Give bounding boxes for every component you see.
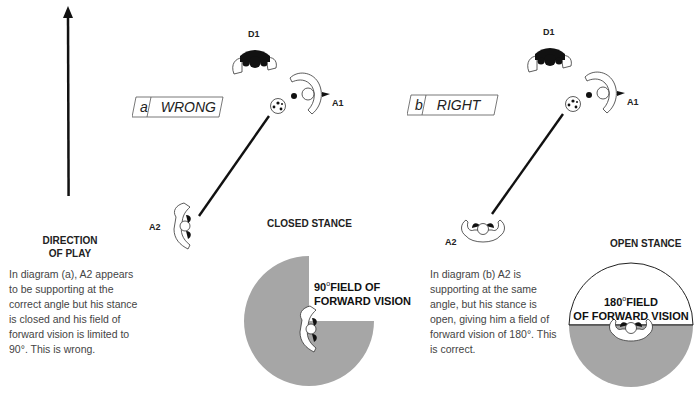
open-stance-title: OPEN STANCE xyxy=(610,238,682,249)
pass-line-a xyxy=(195,114,275,218)
closed-field-degrees: 90 xyxy=(314,281,326,293)
open-field-label: 180oFIELD OF FORWARD VISION xyxy=(572,292,690,323)
open-field-line1: FIELD xyxy=(626,296,658,308)
direction-of-play-label: DIRECTION OF PLAY xyxy=(18,234,122,260)
attacker2-label-a: A2 xyxy=(149,222,161,232)
defender-player-icon-b xyxy=(525,46,575,76)
right-tag-letter: b xyxy=(415,97,423,113)
open-field-line2: OF FORWARD VISION xyxy=(572,309,690,323)
right-tag-label: RIGHT xyxy=(437,97,481,113)
attacker1-player-icon xyxy=(288,70,332,118)
attacker2-label-b: A2 xyxy=(445,237,457,247)
closed-stance-vision-field xyxy=(244,256,374,388)
ball-icon-a xyxy=(269,97,287,115)
closed-field-label: 90oFIELD OF FORWARD VISION xyxy=(314,277,411,308)
ball-icon-b xyxy=(564,95,582,113)
defender-label-a: D1 xyxy=(248,29,260,39)
attacker1-label-b: A1 xyxy=(627,97,639,107)
attacker1-label-a: A1 xyxy=(332,98,344,108)
closed-field-line1: FIELD OF xyxy=(330,281,380,293)
closed-stance-title: CLOSED STANCE xyxy=(267,218,352,229)
defender-label-b: D1 xyxy=(543,27,555,37)
open-field-degrees: 180 xyxy=(604,296,622,308)
defender-player-icon xyxy=(230,48,280,78)
attacker2-closed-player-icon xyxy=(170,201,200,251)
wrong-tag-label: WRONG xyxy=(161,99,216,115)
pass-line-b xyxy=(488,112,568,216)
direction-arrow-icon xyxy=(60,6,76,196)
direction-line2: OF PLAY xyxy=(18,247,122,260)
direction-line1: DIRECTION xyxy=(18,234,122,247)
right-tag: b RIGHT xyxy=(407,94,497,116)
open-stance-vision-field xyxy=(568,262,694,390)
attacker2-open-player-icon xyxy=(458,218,508,248)
wrong-tag-letter: a xyxy=(140,99,148,115)
description-b: In diagram (b) A2 is supporting at the s… xyxy=(430,267,565,357)
description-a: In diagram (a), A2 appears to be support… xyxy=(9,267,144,357)
attacker1-player-icon-b xyxy=(583,69,627,117)
closed-field-line2: FORWARD VISION xyxy=(314,294,411,308)
